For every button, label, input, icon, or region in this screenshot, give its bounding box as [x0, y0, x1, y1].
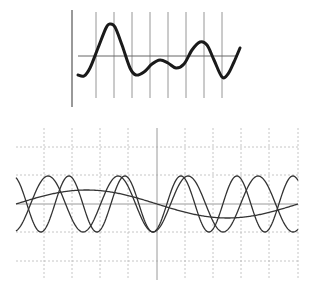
top-waveform-diagram [72, 10, 240, 107]
composite-waveform [78, 24, 240, 78]
bottom-superposition-diagram [16, 128, 298, 280]
waveform-figure [0, 0, 311, 294]
